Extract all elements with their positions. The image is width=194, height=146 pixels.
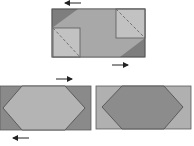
folded-square-left xyxy=(53,28,80,57)
folding-diagram xyxy=(0,0,194,146)
bottom-left-panel xyxy=(0,86,91,130)
bottom-right-panel xyxy=(96,86,191,129)
folded-square-right xyxy=(116,9,145,38)
top-panel xyxy=(52,9,145,57)
